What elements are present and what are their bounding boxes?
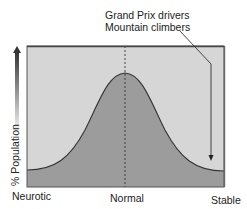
x-label-normal: Normal bbox=[110, 193, 144, 204]
y-axis-label: % Population bbox=[9, 124, 21, 186]
x-label-neurotic: Neurotic bbox=[12, 191, 51, 202]
up-arrow-icon bbox=[13, 46, 21, 53]
x-label-stable: Stable bbox=[211, 195, 241, 206]
annotation-line-2: Mountain climbers bbox=[105, 21, 190, 33]
annotation-label: Grand Prix drivers Mountain climbers bbox=[105, 9, 190, 33]
population-gradient-bar bbox=[15, 52, 19, 130]
annotation-line-1: Grand Prix drivers bbox=[105, 9, 190, 21]
